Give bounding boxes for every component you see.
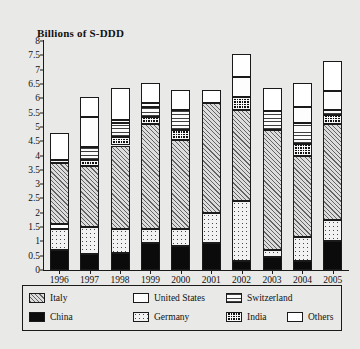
- bar-segment-others-1997[interactable]: [80, 97, 99, 117]
- bar-segment-italy-1997[interactable]: [80, 166, 99, 228]
- bar-segment-italy-1998[interactable]: [111, 146, 130, 229]
- legend-item-germany[interactable]: Germany: [133, 312, 189, 322]
- bar-segment-others-1999[interactable]: [141, 83, 160, 103]
- bar-2005[interactable]: [323, 41, 342, 270]
- bar-segment-germany-2003[interactable]: [263, 250, 282, 257]
- bar-segment-india-1997[interactable]: [80, 160, 99, 166]
- bar-segment-us-upper-1999[interactable]: [141, 103, 160, 107]
- bar-segment-us-upper-2002[interactable]: [232, 77, 251, 97]
- bar-segment-india-1999[interactable]: [141, 117, 160, 124]
- bar-segment-us-upper-2005[interactable]: [323, 91, 342, 110]
- bar-segment-italy-2003[interactable]: [263, 130, 282, 250]
- bar-segment-germany-1996[interactable]: [50, 229, 69, 250]
- y-axis-tick-mark: [40, 98, 44, 99]
- bar-segment-india-2005[interactable]: [323, 115, 342, 124]
- legend-swatch-icon: [226, 293, 242, 303]
- bar-segment-germany-2000[interactable]: [171, 229, 190, 246]
- bar-1999[interactable]: [141, 41, 160, 270]
- bar-segment-others-2001[interactable]: [202, 90, 221, 103]
- bar-segment-china-2003[interactable]: [263, 257, 282, 270]
- bar-segment-others-2003[interactable]: [263, 88, 282, 111]
- x-axis-tick-label-2002: 2002: [232, 275, 251, 285]
- bar-segment-others-2002[interactable]: [232, 54, 251, 77]
- bar-segment-others-1998[interactable]: [111, 88, 130, 119]
- bar-segment-us-upper-1997[interactable]: [80, 117, 99, 147]
- bar-segment-china-2005[interactable]: [323, 241, 342, 270]
- bar-segment-switzerland-2003[interactable]: [263, 111, 282, 130]
- bar-segment-switzerland-1998[interactable]: [111, 123, 130, 137]
- bar-segment-china-2001[interactable]: [202, 243, 221, 270]
- legend-item-others[interactable]: Others: [287, 312, 333, 322]
- bar-segment-switzerland-2000[interactable]: [171, 110, 190, 130]
- bar-segment-india-2002[interactable]: [232, 97, 251, 110]
- legend-label: Germany: [154, 312, 189, 322]
- x-axis-tick-label-1997: 1997: [80, 275, 99, 285]
- bar-2003[interactable]: [263, 41, 282, 270]
- legend-swatch-icon: [133, 293, 149, 303]
- x-axis-tick-label-2000: 2000: [171, 275, 190, 285]
- x-axis-tick-mark: [272, 270, 273, 274]
- y-axis-tick-mark: [40, 169, 44, 170]
- bar-segment-india-2004[interactable]: [293, 144, 312, 155]
- bar-segment-germany-2001[interactable]: [202, 213, 221, 243]
- bar-segment-others-2005[interactable]: [323, 61, 342, 91]
- chart-page: Billions of S-DDD 00.511.522.533.544.555…: [0, 0, 360, 349]
- bar-segment-us-upper-1998[interactable]: [111, 120, 130, 123]
- bar-segment-china-2002[interactable]: [232, 261, 251, 270]
- bar-1996[interactable]: [50, 41, 69, 270]
- bar-segment-china-1996[interactable]: [50, 250, 69, 270]
- bar-segment-germany-2005[interactable]: [323, 220, 342, 241]
- bar-segment-others-2004[interactable]: [293, 83, 312, 107]
- bar-segment-china-1999[interactable]: [141, 243, 160, 270]
- bar-segment-india-1996[interactable]: [50, 160, 69, 163]
- bar-segment-china-1998[interactable]: [111, 253, 130, 270]
- bar-2001[interactable]: [202, 41, 221, 270]
- bar-segment-italy-2000[interactable]: [171, 140, 190, 229]
- bar-segment-germany-1997[interactable]: [80, 227, 99, 254]
- y-axis-tick-mark: [40, 227, 44, 228]
- legend-item-united-states[interactable]: United States: [133, 293, 205, 303]
- y-axis-tick-mark: [40, 198, 44, 199]
- bar-segment-germany-1998[interactable]: [111, 229, 130, 253]
- bar-segment-us-upper-2004[interactable]: [293, 107, 312, 123]
- bar-segment-italy-2002[interactable]: [232, 110, 251, 202]
- bar-segment-switzerland-1999[interactable]: [141, 107, 160, 117]
- bar-segment-others-2000[interactable]: [171, 90, 190, 110]
- legend-swatch-icon: [29, 312, 45, 322]
- legend-item-china[interactable]: China: [29, 312, 73, 322]
- x-axis-tick-mark: [181, 270, 182, 274]
- bar-1998[interactable]: [111, 41, 130, 270]
- bar-2004[interactable]: [293, 41, 312, 270]
- bar-2000[interactable]: [171, 41, 190, 270]
- legend-item-switzerland[interactable]: Switzerland: [226, 293, 292, 303]
- bar-segment-china-2004[interactable]: [293, 261, 312, 270]
- bar-1997[interactable]: [80, 41, 99, 270]
- bar-segment-switzerland-2005[interactable]: [323, 110, 342, 116]
- x-axis-tick-mark: [242, 270, 243, 274]
- bar-segment-germany-2002[interactable]: [232, 201, 251, 261]
- bar-segment-china-2000[interactable]: [171, 246, 190, 270]
- bar-2002[interactable]: [232, 41, 251, 270]
- legend-item-india[interactable]: India: [226, 312, 267, 322]
- legend-item-italy[interactable]: Italy: [29, 293, 67, 303]
- y-axis-tick-mark: [40, 112, 44, 113]
- bar-segment-india-2000[interactable]: [171, 130, 190, 140]
- bar-segment-india-1998[interactable]: [111, 137, 130, 146]
- bar-segment-switzerland-1997[interactable]: [80, 147, 99, 160]
- bar-segment-italy-1996[interactable]: [50, 163, 69, 225]
- chart-title: Billions of S-DDD: [37, 27, 124, 39]
- bar-segment-italy-2001[interactable]: [202, 103, 221, 213]
- legend-label: Italy: [50, 293, 67, 303]
- bar-segment-italy-1999[interactable]: [141, 124, 160, 228]
- bar-segment-italy-2005[interactable]: [323, 124, 342, 220]
- bar-segment-china-1997[interactable]: [80, 254, 99, 270]
- bar-segment-others-1996[interactable]: [50, 133, 69, 160]
- legend-label: Others: [308, 312, 333, 322]
- bar-segment-germany-1999[interactable]: [141, 229, 160, 243]
- legend-swatch-icon: [133, 312, 149, 322]
- bar-segment-italy-2004[interactable]: [293, 156, 312, 238]
- bar-segment-united-states-1996[interactable]: [50, 224, 69, 228]
- bar-segment-switzerland-2004[interactable]: [293, 123, 312, 144]
- y-axis-tick-mark: [40, 155, 44, 156]
- bar-segment-germany-2004[interactable]: [293, 237, 312, 261]
